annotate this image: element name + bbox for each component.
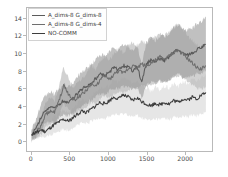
legend-swatch-line-icon	[32, 24, 45, 25]
figure: 024681012140500100015002000 A_dims-8 G_d…	[0, 0, 228, 177]
x-axis-tick-mark	[185, 152, 186, 155]
legend-label: A_dims-8 G_dims-8	[48, 11, 102, 19]
y-axis-tick-label: 4	[0, 103, 22, 110]
x-axis-tick-mark	[108, 152, 109, 155]
legend-item-1[interactable]: A_dims-8 G_dims-4	[32, 20, 102, 28]
legend-swatch-line-icon	[32, 33, 45, 34]
x-axis-tick-mark	[69, 152, 70, 155]
x-axis-tick-label: 1000	[93, 155, 123, 162]
legend-item-0[interactable]: A_dims-8 G_dims-8	[32, 11, 102, 19]
y-axis-tick-label: 14	[0, 14, 22, 21]
legend-label: A_dims-8 G_dims-4	[48, 20, 102, 28]
x-axis-tick-label: 1500	[132, 155, 162, 162]
x-axis-tick-mark	[147, 152, 148, 155]
y-axis-tick-label: 2	[0, 120, 22, 127]
y-axis-tick-label: 8	[0, 67, 22, 74]
legend-item-2[interactable]: NO-COMM	[32, 29, 102, 37]
x-axis-tick-label: 2000	[170, 155, 200, 162]
y-axis-tick-label: 12	[0, 32, 22, 39]
x-axis-tick-label: 0	[16, 155, 46, 162]
y-axis-tick-label: 0	[0, 138, 22, 145]
x-axis-tick-mark	[31, 152, 32, 155]
legend-swatch-line-icon	[32, 15, 45, 16]
legend-label: NO-COMM	[48, 29, 77, 37]
y-axis-tick-label: 10	[0, 49, 22, 56]
x-axis-tick-label: 500	[54, 155, 84, 162]
chart-legend[interactable]: A_dims-8 G_dims-8 A_dims-8 G_dims-4 NO-C…	[28, 8, 107, 41]
y-axis-tick-label: 6	[0, 85, 22, 92]
